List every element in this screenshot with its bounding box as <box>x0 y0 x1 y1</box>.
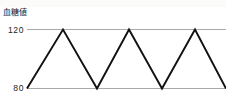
plot-area <box>0 0 226 108</box>
blood-glucose-chart: 血糖値 120 80 <box>0 0 226 108</box>
blood-glucose-series-line <box>27 30 226 89</box>
